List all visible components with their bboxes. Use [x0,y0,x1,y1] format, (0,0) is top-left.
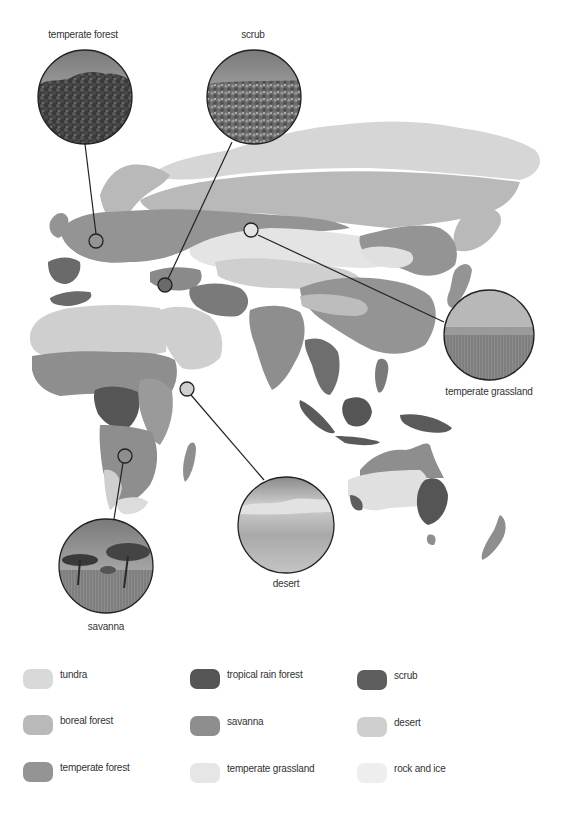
region-tundra-siberia [150,122,540,180]
callout-label-savanna: savanna [88,621,124,632]
photo-temperate-grassland[interactable] [444,290,534,380]
callout-label-desert: desert [273,578,300,589]
legend-swatch-rock-and-ice [357,763,387,783]
legend-item-boreal-forest: boreal forest [23,715,113,735]
marker-scrub[interactable] [158,278,172,292]
legend-label: tropical rain forest [227,669,302,680]
region-sahara [30,305,167,355]
region-cape [117,497,148,514]
photo-scrub[interactable] [207,50,301,144]
legend-item-temperate-forest: temperate forest [23,762,130,782]
region-se-asia [305,339,340,396]
photo-savanna[interactable] [59,519,153,613]
marker-desert[interactable] [180,382,194,396]
marker-savanna[interactable] [118,449,132,463]
legend-swatch-scrub [357,670,387,690]
marker-temperate-forest[interactable] [89,234,103,248]
region-java [335,436,380,445]
region-new-zealand [482,515,506,560]
biome-legend: tundra tropical rain forest scrub boreal… [0,650,565,817]
region-madagascar [183,443,196,482]
legend-swatch-temperate-forest [23,762,53,782]
legend-swatch-tropical-rain-forest [190,669,220,689]
region-maghreb [50,291,91,306]
legend-label: rock and ice [394,763,446,774]
biome-map [0,0,565,640]
photo-temperate-forest[interactable] [38,50,132,144]
legend-swatch-savanna [190,716,220,736]
legend-swatch-boreal-forest [23,715,53,735]
legend-item-tundra: tundra [23,669,87,689]
legend-label: desert [394,717,421,728]
legend-label: tundra [60,669,87,680]
legend-label: temperate forest [60,762,130,773]
region-india [249,306,304,390]
legend-swatch-tundra [23,669,53,689]
legend-item-rock-and-ice: rock and ice [357,763,446,783]
region-philippines [375,359,388,393]
callout-label-temperate-grassland: temperate grassland [445,386,532,397]
region-sumatra [299,400,335,433]
legend-item-desert: desert [357,717,421,737]
legend-item-savanna: savanna [190,716,263,736]
region-congo-rainforest [94,386,140,428]
legend-label: boreal forest [60,715,113,726]
legend-label: scrub [394,670,417,681]
legend-swatch-desert [357,717,387,737]
legend-label: temperate grassland [227,763,314,774]
legend-item-temperate-grassland: temperate grassland [190,763,314,783]
region-australia-east [417,478,448,525]
legend-item-tropical-rain-forest: tropical rain forest [190,669,302,689]
callout-label-scrub: scrub [241,29,264,40]
region-tasmania [427,535,436,546]
region-iberia [48,258,80,285]
region-new-guinea [400,414,452,433]
legend-item-scrub: scrub [357,670,417,690]
marker-temperate-grassland[interactable] [244,223,258,237]
legend-swatch-temperate-grassland [190,763,220,783]
legend-label: savanna [227,716,263,727]
region-borneo [342,397,372,426]
callout-label-temperate-forest: temperate forest [48,29,118,40]
photo-desert[interactable] [238,477,334,573]
